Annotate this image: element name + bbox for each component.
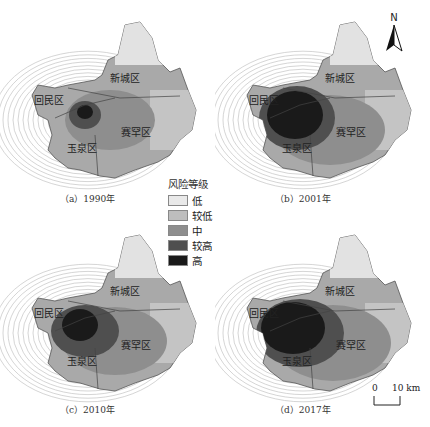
north-arrow-icon xyxy=(383,23,405,53)
label-saihan: 赛罕区 xyxy=(336,126,366,138)
legend-item-medium: 中 xyxy=(168,223,212,238)
label-saihan: 赛罕区 xyxy=(121,339,151,351)
label-xincheng: 新城区 xyxy=(325,285,355,297)
label-xincheng: 新城区 xyxy=(325,72,355,84)
label-saihan: 赛罕区 xyxy=(121,126,151,138)
label-huimin: 回民区 xyxy=(34,95,64,106)
legend-item-higher: 较高 xyxy=(168,238,212,253)
label-huimin: 回民区 xyxy=(249,95,279,106)
scale-bar-icon xyxy=(373,396,413,408)
legend-swatch xyxy=(168,225,188,236)
legend-item-high: 高 xyxy=(168,253,212,268)
label-huimin: 回民区 xyxy=(34,308,64,319)
label-xincheng: 新城区 xyxy=(110,72,140,84)
label-yuquan: 玉泉区 xyxy=(282,142,312,154)
north-label: N xyxy=(383,12,405,23)
label-saihan: 赛罕区 xyxy=(336,339,366,351)
label-yuquan: 玉泉区 xyxy=(282,355,312,367)
scale-start: 0 xyxy=(372,383,378,393)
legend-label: 低 xyxy=(192,193,202,208)
legend-label: 中 xyxy=(192,223,202,238)
map-panel-4: 新城区 回民区 赛罕区 玉泉区 （d）2017年 xyxy=(215,213,430,426)
panel-caption: （a）1990年 xyxy=(60,192,115,205)
legend-swatch xyxy=(168,255,188,266)
legend-label: 高 xyxy=(192,253,202,268)
legend-item-lower: 较低 xyxy=(168,208,212,223)
label-yuquan: 玉泉区 xyxy=(67,142,97,154)
panel-caption: （b）2001年 xyxy=(275,192,331,205)
panel-caption: （c）2010年 xyxy=(60,403,115,416)
map-icon: 新城区 回民区 赛罕区 玉泉区 xyxy=(215,213,430,426)
legend-label: 较高 xyxy=(192,238,212,253)
legend-swatch xyxy=(168,240,188,251)
label-huimin: 回民区 xyxy=(249,308,279,319)
legend-item-low: 低 xyxy=(168,193,212,208)
legend-title: 风险等级 xyxy=(168,176,212,191)
label-xincheng: 新城区 xyxy=(110,285,140,297)
legend-swatch xyxy=(168,195,188,206)
panel-caption: （d）2017年 xyxy=(275,403,331,416)
legend: 风险等级 低 较低 中 较高 高 xyxy=(168,176,212,268)
label-yuquan: 玉泉区 xyxy=(67,355,97,367)
legend-label: 较低 xyxy=(192,208,212,223)
legend-swatch xyxy=(168,210,188,221)
scale-end: 10 km xyxy=(392,383,420,393)
north-arrow: N xyxy=(383,12,405,57)
